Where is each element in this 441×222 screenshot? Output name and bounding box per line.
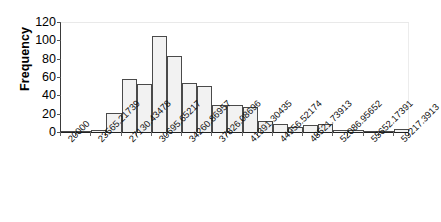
x-axis-tick-mark: [272, 132, 273, 136]
y-axis-tick-labels: 020406080100120: [22, 16, 56, 132]
y-axis-tick-label: 80: [22, 52, 56, 65]
y-axis-tick-label: 120: [22, 16, 56, 29]
x-axis-tick-mark: [90, 132, 91, 136]
y-axis-tick-mark: [57, 59, 61, 60]
gridline: [61, 22, 409, 23]
y-axis-tick-mark: [57, 114, 61, 115]
x-axis-tick-mark: [181, 132, 182, 136]
y-axis-tick-mark: [57, 40, 61, 41]
x-axis-tick-mark: [393, 132, 394, 136]
x-axis-tick-mark: [121, 132, 122, 136]
x-axis-tick-mark: [363, 132, 364, 136]
y-axis-tick-label: 40: [22, 89, 56, 102]
x-axis-tick-mark: [332, 132, 333, 136]
y-axis-tick-label: 60: [22, 71, 56, 84]
x-axis-tick-labels: 2000023565.2173927130.4347830695.6521734…: [60, 137, 408, 219]
x-axis-tick-mark: [151, 132, 152, 136]
y-axis-tick-mark: [57, 95, 61, 96]
y-axis-tick-mark: [57, 77, 61, 78]
x-axis-tick-mark: [302, 132, 303, 136]
x-axis-tick-mark: [60, 132, 61, 136]
y-axis-tick-label: 100: [22, 34, 56, 47]
x-axis-tick-mark: [211, 132, 212, 136]
y-axis-tick-label: 20: [22, 107, 56, 120]
y-axis-tick-label: 0: [22, 126, 56, 139]
x-axis-tick-mark: [242, 132, 243, 136]
